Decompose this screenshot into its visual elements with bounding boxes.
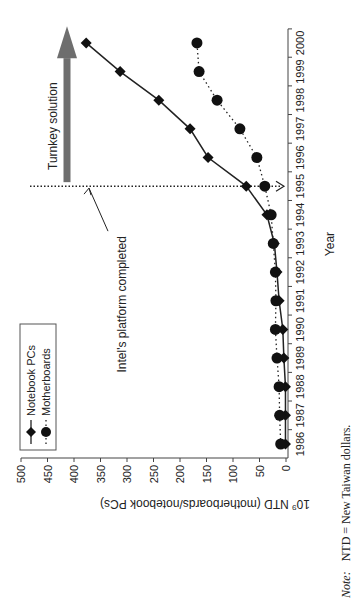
x-tick-label: 1992 bbox=[294, 260, 306, 284]
line-chart: 1986198719881989199019911992199319941995… bbox=[0, 0, 362, 606]
x-tick-label: 1989 bbox=[294, 346, 306, 370]
annotations: Turnkey solutionIntel's platform complet… bbox=[30, 26, 284, 372]
x-tick-label: 1993 bbox=[294, 231, 306, 255]
circle-marker bbox=[270, 295, 281, 306]
x-tick-label: 1986 bbox=[294, 432, 306, 456]
x-tick-label: 1998 bbox=[294, 88, 306, 112]
intel-pointer-line bbox=[89, 188, 108, 231]
x-tick-label: 1999 bbox=[294, 59, 306, 83]
y-tick-label: 300 bbox=[121, 465, 133, 483]
circle-marker bbox=[274, 410, 285, 421]
notebook-pcs-series bbox=[81, 37, 291, 449]
circle-marker bbox=[259, 181, 270, 192]
rotated-figure: 1986198719881989199019911992199319941995… bbox=[0, 0, 362, 606]
circle-marker bbox=[270, 267, 281, 278]
y-tick-label: 0 bbox=[280, 465, 292, 471]
x-tick-label: 1997 bbox=[294, 117, 306, 141]
x-axis-label: Year bbox=[323, 232, 337, 256]
circle-marker bbox=[194, 66, 205, 77]
diamond-marker bbox=[203, 152, 214, 163]
turnkey-arrow-shaft bbox=[64, 58, 71, 182]
x-tick-label: 1995 bbox=[294, 174, 306, 198]
legend: Notebook PCsMotherboards bbox=[20, 324, 56, 450]
circle-marker bbox=[234, 123, 245, 134]
x-tick-label: 1994 bbox=[294, 203, 306, 227]
turnkey-label: Turnkey solution bbox=[46, 82, 60, 170]
y-tick-label: 200 bbox=[174, 465, 186, 483]
circle-marker bbox=[270, 324, 281, 335]
legend-label: Motherboards bbox=[40, 348, 52, 416]
x-tick-label: 1987 bbox=[294, 403, 306, 427]
y-tick-label: 50 bbox=[254, 465, 266, 477]
circle-marker bbox=[274, 381, 285, 392]
y-tick-label: 150 bbox=[201, 465, 213, 483]
y-tick-label: 500 bbox=[15, 465, 27, 483]
legend-label: Notebook PCs bbox=[25, 345, 37, 416]
y-axis-label: 109 NTD (motherboards/notebook PCs) bbox=[100, 497, 310, 512]
y-tick-label: 350 bbox=[95, 465, 107, 483]
circle-marker bbox=[271, 353, 282, 364]
circle-marker bbox=[251, 152, 262, 163]
motherboards-series bbox=[191, 37, 286, 449]
circle-marker bbox=[275, 439, 286, 450]
y-tick-label: 450 bbox=[42, 465, 54, 483]
y-tick-label: 250 bbox=[148, 465, 160, 483]
y-tick-label: 400 bbox=[68, 465, 80, 483]
circle-marker bbox=[266, 209, 277, 220]
x-tick-label: 1988 bbox=[294, 374, 306, 398]
circle-marker bbox=[191, 37, 202, 48]
footnote: Note:NTD = New Taiwan dollars. bbox=[339, 425, 353, 599]
x-tick-label: 1991 bbox=[294, 289, 306, 313]
circle-marker-icon bbox=[41, 427, 51, 437]
circle-marker bbox=[212, 95, 223, 106]
y-tick-label: 100 bbox=[227, 465, 239, 483]
data-series bbox=[81, 37, 291, 449]
intel-label: Intel's platform completed bbox=[115, 236, 129, 372]
x-tick-label: 1996 bbox=[294, 145, 306, 169]
x-tick-label: 1990 bbox=[294, 317, 306, 341]
x-tick-label: 2000 bbox=[294, 31, 306, 55]
diamond-marker bbox=[241, 181, 252, 192]
arrow-right-icon bbox=[57, 26, 77, 58]
circle-marker bbox=[268, 238, 279, 249]
